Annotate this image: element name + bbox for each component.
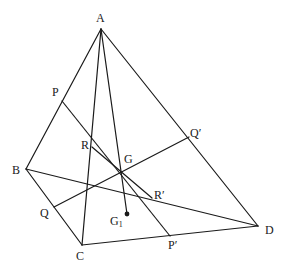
tetrahedron-diagram: A B C D P Q R G P′ Q′ R′ G1 [0, 0, 288, 269]
edge-AB [26, 29, 101, 169]
label-Qprime: Q′ [190, 126, 202, 140]
label-A: A [96, 11, 105, 25]
label-C: C [76, 249, 84, 263]
label-Pprime: P′ [168, 238, 178, 252]
label-D: D [265, 223, 274, 237]
edge-BD [26, 169, 258, 226]
label-P: P [52, 85, 59, 99]
label-Q: Q [40, 206, 49, 220]
label-G: G [124, 152, 133, 166]
label-Rprime: R′ [154, 188, 165, 202]
segment-R-Rprime [92, 147, 152, 198]
label-G1-subscript: 1 [119, 220, 123, 229]
point-G1 [125, 212, 130, 217]
label-G1: G1 [110, 214, 123, 229]
label-G1-main: G [110, 214, 119, 228]
label-B: B [12, 163, 20, 177]
label-R: R [81, 138, 89, 152]
